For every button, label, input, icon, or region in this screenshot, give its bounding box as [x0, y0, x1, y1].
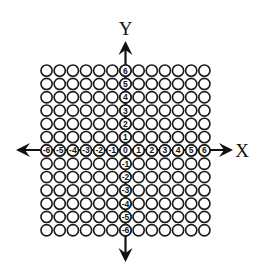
- grid-circle: [67, 92, 78, 103]
- grid-circle: [107, 185, 118, 196]
- grid-circle: [80, 78, 91, 89]
- grid-circle: [146, 92, 157, 103]
- grid-circle: [107, 158, 118, 169]
- grid-circle: [94, 78, 105, 89]
- x-tick-label: 1: [136, 145, 141, 155]
- grid-circle: [41, 92, 52, 103]
- grid-circle: [133, 198, 144, 209]
- y-tick-label: -4: [122, 199, 130, 209]
- grid-circle: [54, 118, 65, 129]
- grid-circle: [186, 65, 197, 76]
- grid-circle: [41, 65, 52, 76]
- grid-circle: [133, 65, 144, 76]
- x-axis-label: X: [235, 140, 249, 161]
- grid-circle: [67, 225, 78, 236]
- grid-circle: [67, 211, 78, 222]
- grid-circle: [159, 118, 170, 129]
- grid-circle: [41, 171, 52, 182]
- grid-circle: [199, 118, 210, 129]
- grid-circle: [199, 211, 210, 222]
- grid-circle: [107, 211, 118, 222]
- grid-circle: [199, 78, 210, 89]
- grid-circle: [41, 211, 52, 222]
- grid-circle: [80, 171, 91, 182]
- grid-circle: [67, 171, 78, 182]
- y-tick-label: 3: [123, 106, 128, 116]
- x-tick-label: 0: [123, 145, 128, 155]
- grid-circle: [186, 132, 197, 143]
- grid-circle: [146, 211, 157, 222]
- grid-circle: [94, 198, 105, 209]
- grid-circle: [199, 158, 210, 169]
- grid-circle: [107, 225, 118, 236]
- grid-circle: [159, 158, 170, 169]
- grid-circle: [94, 171, 105, 182]
- y-tick-label: 5: [123, 79, 128, 89]
- y-axis-label: Y: [119, 18, 133, 39]
- grid-circle: [199, 225, 210, 236]
- grid-circle: [41, 185, 52, 196]
- grid-circle: [146, 225, 157, 236]
- y-tick-label: -5: [122, 212, 130, 222]
- grid-circle: [54, 92, 65, 103]
- grid-circle: [172, 132, 183, 143]
- y-tick-label: -1: [122, 159, 130, 169]
- grid-circle: [94, 105, 105, 116]
- y-tick-label: 1: [123, 132, 128, 142]
- x-tick-label: -3: [82, 145, 90, 155]
- grid-circle: [146, 185, 157, 196]
- grid-circle: [186, 78, 197, 89]
- grid-circle: [159, 185, 170, 196]
- grid-circle: [80, 198, 91, 209]
- x-tick-label: -5: [56, 145, 64, 155]
- grid-circle: [199, 92, 210, 103]
- grid-circle: [146, 132, 157, 143]
- grid-circle: [186, 105, 197, 116]
- grid-circle: [172, 158, 183, 169]
- x-tick-label: 2: [149, 145, 154, 155]
- grid-circle: [67, 78, 78, 89]
- grid-circle: [67, 65, 78, 76]
- grid-circle: [186, 171, 197, 182]
- grid-circle: [159, 105, 170, 116]
- grid-circle: [172, 211, 183, 222]
- grid-circle: [94, 118, 105, 129]
- grid-circle: [186, 158, 197, 169]
- grid-circle: [159, 92, 170, 103]
- grid-circle: [107, 92, 118, 103]
- grid-circle: [199, 171, 210, 182]
- grid-circle: [80, 92, 91, 103]
- grid-circle: [146, 105, 157, 116]
- grid-circle: [186, 185, 197, 196]
- grid-circle: [172, 78, 183, 89]
- grid-circle: [146, 158, 157, 169]
- grid-circle: [186, 225, 197, 236]
- grid-circle: [107, 118, 118, 129]
- grid-circle: [41, 78, 52, 89]
- x-tick-label: -4: [69, 145, 77, 155]
- grid-circle: [133, 211, 144, 222]
- x-tick-label: -6: [43, 145, 51, 155]
- coordinate-grid-diagram: -6-5-4-3-2-10123456654321-1-2-3-4-5-6 X …: [0, 0, 265, 278]
- grid-circle: [80, 211, 91, 222]
- grid-circle: [159, 132, 170, 143]
- grid-circle: [159, 65, 170, 76]
- grid-circle: [54, 105, 65, 116]
- grid-circle: [107, 78, 118, 89]
- grid-circle: [67, 132, 78, 143]
- grid-circle: [186, 211, 197, 222]
- x-tick-label: 5: [189, 145, 194, 155]
- grid-circle: [159, 171, 170, 182]
- grid-circle: [146, 198, 157, 209]
- grid-circle: [80, 118, 91, 129]
- grid-circle: [94, 225, 105, 236]
- y-tick-label: 4: [123, 92, 128, 102]
- grid-circle: [80, 65, 91, 76]
- grid-circle: [107, 171, 118, 182]
- grid-circle: [94, 92, 105, 103]
- grid-circle: [159, 225, 170, 236]
- grid-circle: [94, 132, 105, 143]
- grid-circle: [94, 65, 105, 76]
- grid-circle: [67, 198, 78, 209]
- grid-circle: [172, 118, 183, 129]
